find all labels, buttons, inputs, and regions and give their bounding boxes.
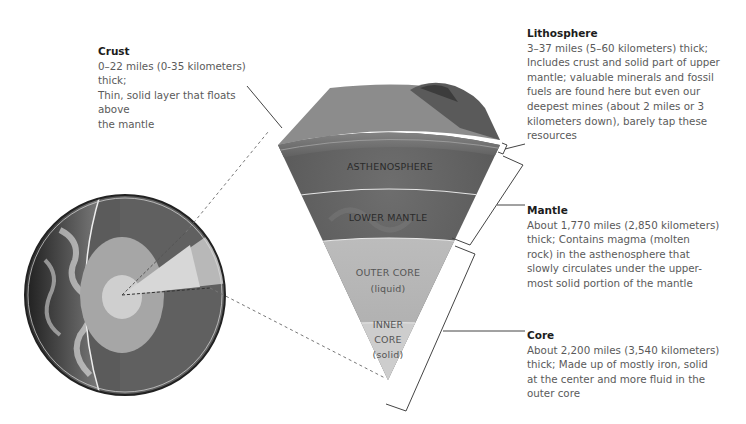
earth-layers-diagram: ASTHENOSPHERE LOWER MANTLE OUTER CORE (l… [0,0,746,424]
inner-core-label: CORE [374,334,402,345]
outer-core-sublabel: (liquid) [370,283,405,294]
asthenosphere-label: ASTHENOSPHERE [347,161,433,172]
globe-cutaway [25,195,230,395]
projection-line-top [186,132,268,232]
lower-mantle-label: LOWER MANTLE [349,212,428,223]
lithosphere-leader-line [505,144,525,149]
inner-core-sublabel: (solid) [373,349,404,360]
earth-wedge: ASTHENOSPHERE LOWER MANTLE OUTER CORE (l… [270,83,510,400]
inner-core-label: INNER [373,319,404,330]
outer-core-label: OUTER CORE [356,267,421,278]
globe-inner-core [102,275,142,319]
crust-leader-line [247,86,282,128]
